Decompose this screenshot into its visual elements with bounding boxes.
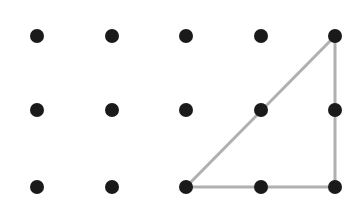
grid-dot [30,180,44,194]
grid-dot [328,180,342,194]
grid-dot [30,103,44,117]
grid-dot [179,103,193,117]
grid-dot [328,29,342,43]
grid-dot [179,29,193,43]
dot-grid-diagram [0,0,356,201]
grid-dot [254,103,268,117]
grid-dot [30,29,44,43]
grid-dot [254,29,268,43]
dot-grid [30,29,342,194]
grid-dot [328,103,342,117]
grid-dot [179,180,193,194]
grid-dot [105,29,119,43]
grid-dot [105,180,119,194]
grid-dot [105,103,119,117]
grid-dot [254,180,268,194]
